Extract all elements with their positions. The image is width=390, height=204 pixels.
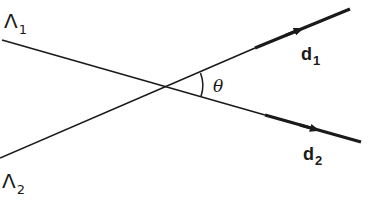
line-lambda-1 <box>2 40 265 115</box>
arrow-d1-icon <box>285 30 300 36</box>
angle-arc <box>201 73 203 97</box>
label-d2: d2 <box>303 144 322 168</box>
line-lambda-2 <box>0 48 255 158</box>
label-theta: θ <box>213 76 223 96</box>
label-lambda-1: Λ1 <box>4 9 27 37</box>
label-d1: d1 <box>301 44 320 68</box>
lines-diagram: Λ1 Λ2 θ d1 d2 <box>0 0 390 204</box>
label-lambda-2: Λ2 <box>2 169 25 197</box>
direction-vector-d1 <box>255 9 350 48</box>
